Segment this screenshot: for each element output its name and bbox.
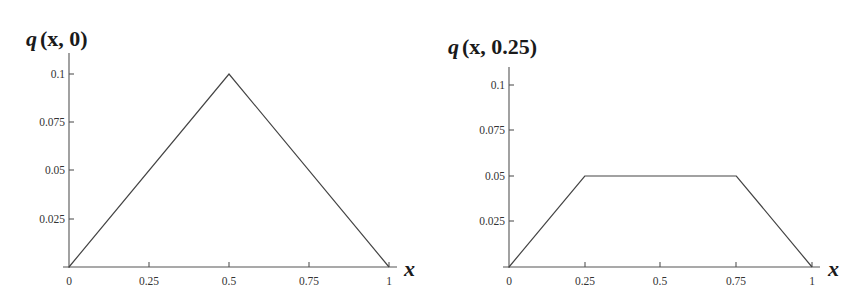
y-tick-label: 0.05 [45, 164, 65, 176]
y-tick-label: 0.075 [39, 116, 65, 128]
data-line [69, 74, 389, 267]
x-tick-label: 1 [809, 275, 815, 287]
y-tick-label: 0.1 [51, 68, 66, 80]
x-tick-label: 0.25 [575, 275, 595, 287]
data-line [509, 176, 812, 267]
x-tick-label: 0 [506, 275, 512, 287]
chart-right-title: q(x, 0.25) [448, 34, 537, 59]
x-tick-label: 0 [66, 275, 72, 287]
chart-left-title: q(x, 0) [26, 26, 88, 51]
x-axis-label: x [827, 256, 839, 281]
figure: q(x, 0) 0.1 0.075 0.05 0.025 0 0.25 0.5 … [0, 0, 868, 303]
x-tick-label: 0.75 [726, 275, 746, 287]
x-tick-label: 1 [386, 275, 392, 287]
y-tick-label: 0.1 [491, 79, 506, 91]
x-tick-label: 0.5 [653, 275, 668, 287]
x-ticks: 0 0.25 0.5 0.75 1 [506, 262, 815, 287]
x-tick-label: 0.25 [139, 275, 159, 287]
x-tick-label: 0.75 [299, 275, 319, 287]
chart-right: q(x, 0.25) 0.1 0.075 0.05 0.025 0 0.25 0… [448, 34, 839, 287]
chart-left: q(x, 0) 0.1 0.075 0.05 0.025 0 0.25 0.5 … [26, 26, 415, 287]
y-tick-label: 0.025 [479, 215, 505, 227]
y-tick-label: 0.025 [39, 213, 65, 225]
x-ticks: 0 0.25 0.5 0.75 1 [66, 262, 392, 287]
y-tick-label: 0.075 [479, 124, 505, 136]
y-tick-label: 0.05 [485, 170, 505, 182]
x-axis-label: x [403, 256, 415, 281]
x-tick-label: 0.5 [222, 275, 237, 287]
